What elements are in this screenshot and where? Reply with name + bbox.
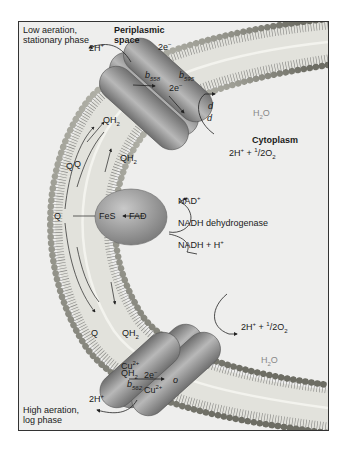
text: + <box>256 322 266 332</box>
text: Cu <box>121 361 133 371</box>
top-electrons-1-label: 2e− <box>158 42 172 52</box>
qh2-label-3: QH2 <box>122 328 139 338</box>
text: 2e <box>158 42 168 52</box>
text: 2e <box>169 83 179 93</box>
sub: 2 <box>134 159 137 165</box>
text: 2H <box>241 322 253 332</box>
top-proton-out-label: 2H+ <box>89 43 104 53</box>
top-left-condition-label: Low aeration, stationary phase <box>23 25 89 45</box>
b558-label: b558 <box>145 70 160 80</box>
qh2-label-2: QH2 <box>120 153 137 163</box>
fes-label: FeS <box>99 211 116 221</box>
diagram-frame: Low aeration, stationary phase Periplasm… <box>18 21 329 431</box>
q-label-center: Q <box>54 211 61 221</box>
sup: + <box>197 195 201 201</box>
sup: − <box>168 41 172 47</box>
heme-d-1-label: d <box>208 101 213 111</box>
sub: 2 <box>272 154 275 160</box>
text: 2e <box>144 370 154 380</box>
sup: 2+ <box>156 384 163 390</box>
text: O <box>263 108 270 118</box>
condition-line-1: Low aeration, <box>23 25 89 35</box>
sup: 2+ <box>133 360 140 366</box>
sub: 595 <box>184 76 194 82</box>
nadh-dehydrogenase-label: NADH dehydrogenase <box>178 218 268 228</box>
sub: 2 <box>136 334 139 340</box>
bottom-left-condition-label: High aeration, log phase <box>23 405 79 425</box>
text: QH <box>120 153 134 163</box>
sub: 2 <box>284 328 287 334</box>
bottom-water-label: H2O <box>261 355 278 365</box>
sub: 558 <box>150 76 160 82</box>
top-oxygen-substrate-label: 2H+ + 1/2O2 <box>229 148 276 158</box>
text: 2H <box>89 394 101 404</box>
bottom-oxygen-substrate-label: 2H+ + 1/2O2 <box>241 322 288 332</box>
heme-d-2-label: d <box>207 113 212 123</box>
q-label-2: Q <box>74 159 81 169</box>
b562-label: b562 <box>127 379 142 389</box>
bottom-electrons-label: 2e− <box>144 370 158 380</box>
heme-o-label: o <box>173 375 178 385</box>
text: O <box>271 355 278 365</box>
nadh-h-label: NADH + H+ <box>178 240 224 250</box>
text: Cu <box>144 385 156 395</box>
bottom-proton-out-label: 2H+ <box>89 394 104 404</box>
cu-label-2: Cu2+ <box>144 385 162 395</box>
sup: + <box>220 239 224 245</box>
b595-label: b595 <box>179 70 194 80</box>
sub: 2 <box>117 121 120 127</box>
cytoplasm-label: Cytoplasm <box>252 135 298 145</box>
sup: − <box>154 369 158 375</box>
condition-line-2: log phase <box>23 415 79 425</box>
text: QH <box>103 115 117 125</box>
text: 2H <box>89 43 101 53</box>
q-label-1: Q <box>66 161 73 171</box>
text: QH <box>122 328 136 338</box>
periplasm-line-2: space <box>114 35 165 45</box>
text: + <box>244 148 254 158</box>
text: NAD <box>178 196 197 206</box>
periplasmic-space-label: Periplasmic space <box>114 25 165 45</box>
nad-plus-label: NAD+ <box>178 196 201 206</box>
q-label-3: Q <box>91 328 98 338</box>
top-electrons-2-label: 2e− <box>169 83 183 93</box>
fad-label: FAD <box>129 211 147 221</box>
condition-line-2: stationary phase <box>23 35 89 45</box>
periplasm-line-1: Periplasmic <box>114 25 165 35</box>
sup: − <box>179 82 183 88</box>
text: 2H <box>229 148 241 158</box>
sup: + <box>101 42 105 48</box>
sub: 562 <box>132 385 142 391</box>
sup: + <box>101 393 105 399</box>
qh2-label-1: QH2 <box>103 115 120 125</box>
text: NADH + H <box>178 240 220 250</box>
cu-label-1: Cu2+ <box>121 361 139 371</box>
condition-line-1: High aeration, <box>23 405 79 415</box>
top-water-label: H2O <box>253 108 270 118</box>
